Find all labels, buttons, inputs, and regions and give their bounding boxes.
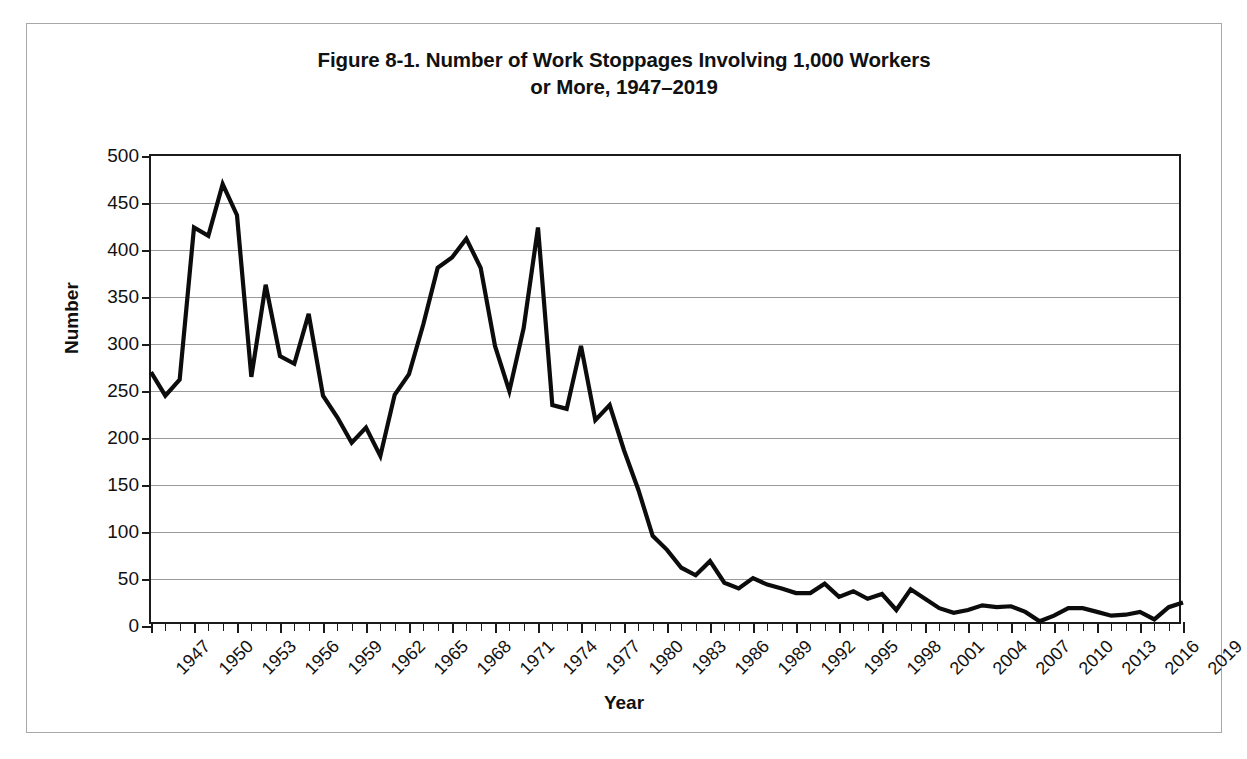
plot-wrap: 050100150200250300350400450500 194719501… <box>149 154 1181 624</box>
x-tick-label: 1971 <box>516 636 559 679</box>
y-tick-mark <box>142 626 151 628</box>
x-tick-mark <box>1183 622 1185 633</box>
figure-frame: Figure 8-1. Number of Work Stoppages Inv… <box>26 23 1222 733</box>
y-tick-label: 100 <box>107 521 139 543</box>
x-tick-label: 1968 <box>473 636 516 679</box>
y-tick-mark <box>142 438 151 440</box>
x-tick-label: 1974 <box>559 636 602 679</box>
x-tick-label: 1956 <box>301 636 344 679</box>
y-tick-mark <box>142 156 151 158</box>
x-tick-label: 1983 <box>688 636 731 679</box>
y-tick-label: 400 <box>107 239 139 261</box>
y-tick-mark <box>142 579 151 581</box>
chart-title-line-1: Figure 8-1. Number of Work Stoppages Inv… <box>318 48 931 71</box>
y-tick-label: 50 <box>118 568 139 590</box>
x-tick-label: 2007 <box>1032 636 1075 679</box>
chart-title-line-2: or More, 1947–2019 <box>27 73 1221 100</box>
x-tick-label: 2004 <box>989 636 1032 679</box>
y-tick-mark <box>142 485 151 487</box>
x-tick-label: 1998 <box>903 636 946 679</box>
y-tick-mark <box>142 391 151 393</box>
x-tick-label: 1953 <box>258 636 301 679</box>
y-axis-label: Number <box>61 282 83 354</box>
x-tick-label: 1980 <box>645 636 688 679</box>
x-tick-label: 1977 <box>602 636 645 679</box>
y-tick-label: 500 <box>107 145 139 167</box>
x-tick-label: 1962 <box>387 636 430 679</box>
y-tick-mark <box>142 297 151 299</box>
x-tick-label: 1950 <box>215 636 258 679</box>
x-tick-label: 2019 <box>1204 636 1247 679</box>
x-tick-label: 1986 <box>731 636 774 679</box>
x-tick-label: 1947 <box>172 636 215 679</box>
page-scan-artifact <box>430 0 850 18</box>
y-tick-label: 0 <box>128 615 139 637</box>
y-tick-mark <box>142 344 151 346</box>
x-tick-label: 1959 <box>344 636 387 679</box>
y-tick-label: 300 <box>107 333 139 355</box>
y-tick-mark <box>142 250 151 252</box>
chart-title: Figure 8-1. Number of Work Stoppages Inv… <box>27 46 1221 101</box>
x-tick-label: 1965 <box>430 636 473 679</box>
x-axis-label: Year <box>27 692 1221 714</box>
y-tick-mark <box>142 203 151 205</box>
x-tick-label: 2016 <box>1161 636 1204 679</box>
x-tick-label: 1995 <box>860 636 903 679</box>
y-tick-label: 350 <box>107 286 139 308</box>
x-tick-label: 1992 <box>817 636 860 679</box>
y-tick-mark <box>142 532 151 534</box>
x-tick-label: 2010 <box>1075 636 1118 679</box>
x-tick-label: 2013 <box>1118 636 1161 679</box>
x-tick-label: 1989 <box>774 636 817 679</box>
x-tick-label: 2001 <box>946 636 989 679</box>
series-line-chart <box>151 156 1183 626</box>
y-tick-label: 250 <box>107 380 139 402</box>
work-stoppages-series-line <box>151 184 1183 621</box>
plot-area: 050100150200250300350400450500 194719501… <box>149 154 1181 624</box>
y-tick-label: 450 <box>107 192 139 214</box>
y-tick-label: 200 <box>107 427 139 449</box>
y-tick-label: 150 <box>107 474 139 496</box>
